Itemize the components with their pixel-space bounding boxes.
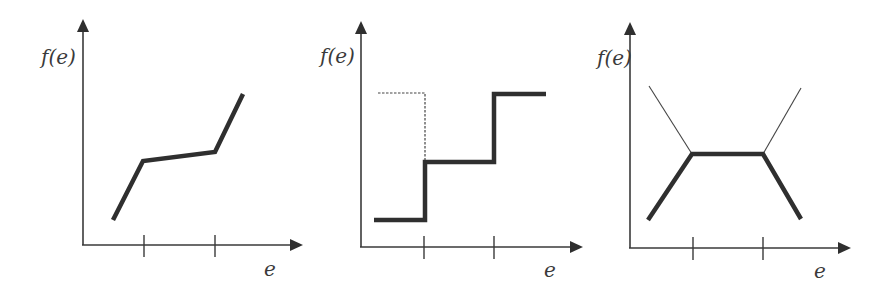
x-axis-label: e [544,258,556,282]
alt-curve-right [763,88,801,154]
panel-3-trapezoid: f(e) e [595,22,851,283]
function-curve [113,94,243,220]
y-axis-label: f(e) [318,44,355,68]
x-axis-label: e [264,257,276,281]
step-function [374,94,546,220]
y-axis-arrow-icon [77,19,89,32]
x-axis-arrow-icon [290,239,303,251]
function-curve [648,154,801,220]
y-axis-arrow-icon [355,21,367,34]
figure-canvas: f(e) e f(e) e f(e) e [0,0,889,285]
x-axis-label: e [814,259,826,283]
y-axis-label: f(e) [39,45,76,69]
x-axis-arrow-icon [570,241,583,253]
panel-1-piecewise-linear: f(e) e [39,19,303,281]
panel-2-step: f(e) e [318,21,583,282]
x-axis-arrow-icon [838,242,851,254]
alt-curve-left [649,86,692,154]
y-axis-arrow-icon [624,22,636,35]
alternative-step-dashed [378,93,425,162]
y-axis-label: f(e) [595,46,632,70]
